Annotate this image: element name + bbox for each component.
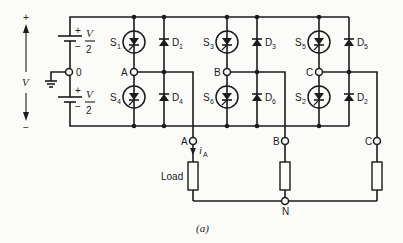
- svg-text:−: −: [75, 101, 81, 112]
- node-b-leg: [224, 69, 231, 76]
- three-phase-load: A i A Load B C N: [161, 136, 382, 217]
- svg-text:1: 1: [179, 43, 183, 50]
- thyristor-s1: [123, 31, 145, 53]
- figure-caption: (a): [196, 222, 209, 235]
- supply-voltage-indicator: + V −: [22, 12, 30, 133]
- svg-text:2: 2: [86, 105, 92, 116]
- svg-text:+: +: [75, 25, 81, 36]
- svg-text:−: −: [75, 41, 81, 52]
- diode-d4: [159, 94, 169, 101]
- thyristor-s5: [308, 31, 330, 53]
- svg-text:A: A: [121, 67, 128, 78]
- node-c-leg: [316, 69, 323, 76]
- svg-text:+: +: [75, 85, 81, 96]
- supply-plus-label: +: [23, 12, 29, 23]
- svg-text:4: 4: [117, 98, 121, 105]
- leg-a: S 1 D 1 S 4 D 4 A: [110, 15, 193, 137]
- inverter-circuit-diagram: + V − + − V 2 + − V 2: [0, 0, 403, 243]
- svg-text:S: S: [110, 92, 117, 103]
- current-arrow-icon: [190, 148, 196, 155]
- svg-text:6: 6: [272, 98, 276, 105]
- diode-d6: [252, 94, 262, 101]
- svg-text:B: B: [214, 67, 221, 78]
- svg-text:A: A: [203, 151, 208, 158]
- svg-text:2: 2: [86, 44, 92, 55]
- load-terminal-a: [190, 138, 197, 145]
- svg-text:S: S: [110, 37, 117, 48]
- load-terminal-b: [282, 138, 289, 145]
- svg-text:1: 1: [117, 43, 121, 50]
- supply-minus-label: −: [23, 122, 29, 133]
- svg-text:5: 5: [364, 43, 368, 50]
- thyristor-s2: [308, 86, 330, 108]
- svg-text:C: C: [365, 136, 372, 147]
- thyristor-s3: [216, 31, 238, 53]
- svg-text:2: 2: [302, 98, 306, 105]
- midpoint-node: [66, 69, 73, 76]
- diode-d3: [252, 39, 262, 46]
- svg-text:4: 4: [179, 98, 183, 105]
- svg-text:V: V: [86, 27, 94, 39]
- upper-battery: + − V 2: [58, 25, 95, 68]
- svg-text:C: C: [306, 67, 313, 78]
- svg-text:i: i: [199, 144, 202, 156]
- arrow-down-icon: [23, 112, 29, 121]
- thyristor-s6: [216, 86, 238, 108]
- svg-text:B: B: [273, 136, 280, 147]
- svg-text:S: S: [203, 37, 210, 48]
- leg-c: S 5 D 5 S 2 D 2 C: [295, 15, 377, 137]
- node-a-leg: [131, 69, 138, 76]
- svg-text:N: N: [282, 206, 289, 217]
- svg-text:6: 6: [210, 98, 214, 105]
- arrow-up-icon: [23, 24, 29, 33]
- diode-d2: [344, 94, 354, 101]
- svg-text:A: A: [181, 136, 188, 147]
- supply-voltage-label: V: [22, 76, 30, 88]
- svg-text:S: S: [203, 92, 210, 103]
- svg-text:Load: Load: [161, 171, 183, 182]
- svg-text:3: 3: [210, 43, 214, 50]
- diode-d5: [344, 39, 354, 46]
- svg-text:5: 5: [302, 43, 306, 50]
- lower-battery: + − V 2: [58, 76, 95, 116]
- svg-text:S: S: [295, 37, 302, 48]
- midpoint-ground: 0: [45, 67, 82, 87]
- load-terminal-c: [374, 138, 381, 145]
- svg-text:V: V: [86, 88, 94, 100]
- thyristor-s4: [123, 86, 145, 108]
- leg-b: S 3 D 3 S 6 D 6 B: [203, 15, 285, 137]
- midpoint-label: 0: [76, 67, 82, 78]
- svg-text:2: 2: [364, 98, 368, 105]
- load-resistor-a: [188, 162, 198, 190]
- diode-d1: [159, 39, 169, 46]
- load-resistor-c: [372, 162, 382, 190]
- neutral-node: [282, 198, 289, 205]
- svg-text:3: 3: [272, 43, 276, 50]
- load-resistor-b: [280, 162, 290, 190]
- svg-text:S: S: [295, 92, 302, 103]
